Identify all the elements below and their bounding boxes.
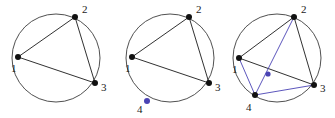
vertex-point-3 <box>206 80 212 86</box>
circle-panel: 1234 <box>232 3 326 113</box>
chord-p1-p4 <box>239 58 255 95</box>
chord-p2-p3 <box>189 17 209 83</box>
circle-outline <box>12 14 100 102</box>
vertex-label-4: 4 <box>246 101 252 113</box>
vertex-label-2: 2 <box>82 3 88 15</box>
circle-outline <box>126 14 214 102</box>
vertex-point-1 <box>129 54 135 60</box>
vertex-label-3: 3 <box>215 81 221 93</box>
chord-p1-p2 <box>18 17 75 57</box>
vertex-label-3: 3 <box>320 82 326 94</box>
chord-diagram-figure: 12312341234 <box>0 0 335 118</box>
vertex-label-1: 1 <box>232 63 238 75</box>
vertex-point-3 <box>92 80 98 86</box>
chord-p1-p3 <box>239 58 314 85</box>
chord-p2-p3 <box>294 17 314 85</box>
vertex-label-2: 2 <box>196 3 202 15</box>
vertex-label-4: 4 <box>137 103 143 115</box>
chord-p1-p3 <box>18 57 95 83</box>
chord-p3-p4 <box>255 85 314 95</box>
chord-p2-p4 <box>255 17 294 95</box>
vertex-label-2: 2 <box>301 3 307 15</box>
intersection-point <box>265 71 270 76</box>
vertex-point-4 <box>144 98 150 104</box>
circle-outline <box>233 14 321 102</box>
vertex-label-1: 1 <box>11 62 17 74</box>
vertex-point-2 <box>291 14 297 20</box>
chord-p1-p2 <box>132 17 189 57</box>
vertex-point-3 <box>311 82 317 88</box>
panels-group: 12312341234 <box>11 3 326 115</box>
vertex-point-4 <box>252 92 258 98</box>
chord-p2-p3 <box>75 17 95 83</box>
vertex-label-3: 3 <box>101 81 107 93</box>
chord-p1-p2 <box>239 17 294 58</box>
vertex-point-2 <box>72 14 78 20</box>
vertex-point-1 <box>236 55 242 61</box>
chord-diagram-svg: 12312341234 <box>0 0 335 118</box>
vertex-point-2 <box>186 14 192 20</box>
circle-panel: 123 <box>11 3 107 102</box>
circle-panel: 1234 <box>125 3 221 115</box>
vertex-point-1 <box>15 54 21 60</box>
chord-p1-p3 <box>132 57 209 83</box>
vertex-label-1: 1 <box>125 62 131 74</box>
